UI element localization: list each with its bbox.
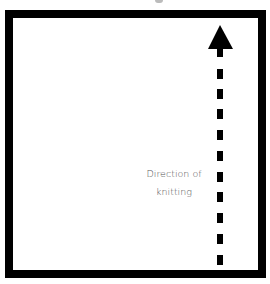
direction-label-line2: knitting: [138, 183, 210, 201]
direction-label-line1: Direction of: [138, 165, 210, 183]
arrowhead: [208, 25, 233, 49]
direction-label: Direction of knitting: [138, 165, 210, 201]
direction-arrow-icon: [0, 0, 270, 284]
